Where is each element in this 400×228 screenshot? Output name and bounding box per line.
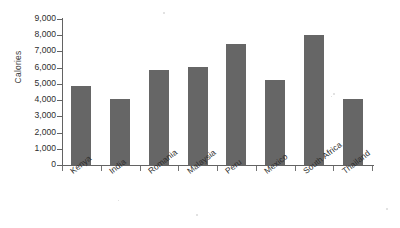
bar [188, 67, 208, 165]
y-axis-tick-label: 9,000 [22, 14, 56, 23]
y-axis-tick-labels: 9,0008,0007,0006,0005,0004,0003,0002,000… [22, 0, 56, 228]
y-axis-tick-label: 2,000 [22, 128, 56, 137]
bar [304, 35, 324, 165]
bar-chart: Calories 9,0008,0007,0006,0005,0004,0003… [0, 0, 400, 228]
y-axis-tick-label: 5,000 [22, 79, 56, 88]
scan-speckle [386, 208, 388, 210]
y-axis-tick-label: 4,000 [22, 95, 56, 104]
bar [110, 99, 130, 166]
y-axis-tick-label: 7,000 [22, 46, 56, 55]
y-axis-tick-label: 3,000 [22, 111, 56, 120]
bar [71, 86, 91, 165]
y-axis-tick-label: 1,000 [22, 144, 56, 153]
x-axis-tick-mark [372, 166, 373, 171]
y-axis-tick-label: 6,000 [22, 63, 56, 72]
y-axis-tick-label: 8,000 [22, 30, 56, 39]
y-axis-tick-label: 0 [22, 160, 56, 169]
bar [226, 44, 246, 165]
x-axis-category-labels: KenyaIndiaRomaniaMalaysiaPeruMexicoSouth… [62, 168, 372, 228]
bar-series [62, 19, 372, 165]
scan-speckle [163, 12, 165, 14]
